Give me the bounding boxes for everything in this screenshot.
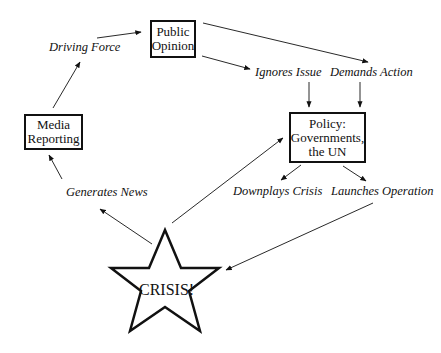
arrow-driving-force-to-public-opinion bbox=[97, 32, 141, 38]
arrow-media-to-driving-force bbox=[53, 62, 80, 108]
arrow-crisis-to-generates-news bbox=[100, 209, 152, 244]
public-opinion-line2: Opinion bbox=[152, 39, 195, 53]
arrow-generates-news-to-media bbox=[49, 155, 62, 179]
arrow-public-opinion-to-ignores-issue bbox=[202, 56, 250, 69]
arrow-launches-to-crisis bbox=[226, 203, 373, 270]
policy-line3: the UN bbox=[309, 145, 347, 159]
label-downplays-crisis: Downplays Crisis bbox=[233, 184, 322, 199]
crisis-label: CRISIS! bbox=[139, 281, 194, 299]
label-launches-operation: Launches Operation bbox=[331, 184, 433, 199]
arrow-public-opinion-to-demands-action bbox=[203, 23, 368, 62]
arrow-policy-to-launches bbox=[343, 166, 366, 181]
media-reporting-line2: Reporting bbox=[28, 132, 80, 146]
policy-line1: Policy: bbox=[309, 117, 346, 131]
label-generates-news: Generates News bbox=[66, 185, 148, 200]
media-reporting-line1: Media bbox=[37, 118, 70, 132]
policy-node: Policy: Governments, the UN bbox=[289, 112, 366, 163]
arrow-crisis-to-policy bbox=[172, 138, 283, 223]
label-ignores-issue: Ignores Issue bbox=[255, 65, 322, 80]
arrow-policy-to-downplays bbox=[281, 165, 301, 180]
label-driving-force: Driving Force bbox=[49, 40, 120, 55]
media-reporting-node: Media Reporting bbox=[24, 114, 83, 150]
label-demands-action: Demands Action bbox=[330, 65, 413, 80]
public-opinion-node: Public Opinion bbox=[150, 20, 196, 58]
policy-line2: Governments, bbox=[291, 131, 364, 145]
public-opinion-line1: Public bbox=[156, 25, 189, 39]
